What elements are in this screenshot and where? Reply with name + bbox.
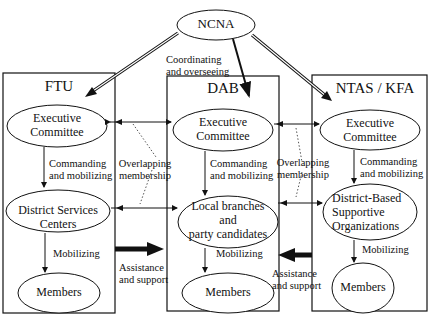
dab-members-label: Members (182, 286, 274, 300)
ftu-commanding-label: Commanding and mobilizing (49, 158, 112, 182)
ntas-members-label: Members (332, 281, 394, 295)
ntas-commanding-label: Commanding and mobilizing (360, 156, 423, 180)
ftu-district-label: District Services Centers (6, 204, 110, 232)
ftu-exec-label: Executive Committee (7, 112, 107, 140)
overlap-left-label: Overlapping membership (118, 158, 172, 182)
ftu-title: FTU (3, 78, 115, 95)
assist-right-label: Assistance and support (272, 268, 321, 292)
ntas-exec-label: Executive Committee (320, 117, 420, 145)
overlap-right-label: Overlapping membership (276, 157, 330, 181)
ftu-mobilizing-label: Mobilizing (53, 248, 100, 260)
dab-local-label: Local branches and party candidates (178, 200, 278, 241)
dab-title: DAB (167, 80, 279, 97)
assist-arrow-right (278, 248, 312, 262)
ncna-label: NCNA (178, 17, 254, 32)
ntas-mobilizing-label: Mobilizing (362, 244, 409, 256)
dab-exec-label: Executive Committee (173, 116, 273, 144)
ntas-district-label: District-Based Supportive Organizations (332, 192, 401, 233)
dab-commanding-label: Commanding and mobilizing (210, 158, 273, 182)
dab-mobilizing-label: Mobilizing (216, 248, 263, 260)
assist-left-label: Assistance and support (119, 262, 168, 286)
ntas-title: NTAS / KFA (320, 80, 430, 97)
coordinating-label: Coordinating and overseeing (166, 54, 229, 78)
assist-arrow-left (115, 242, 164, 256)
ftu-members-label: Members (18, 286, 100, 300)
